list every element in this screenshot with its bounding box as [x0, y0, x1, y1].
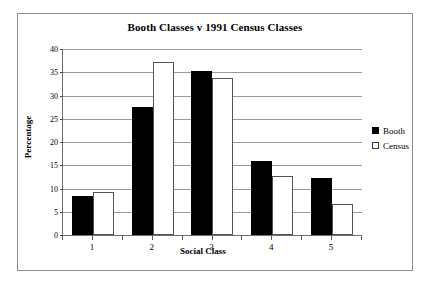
y-axis-tick-label: 20: [50, 138, 58, 147]
y-axis-tick-label: 5: [54, 207, 58, 216]
legend-item-census[interactable]: Census: [372, 139, 428, 152]
chart-legend: BoothCensus: [372, 124, 428, 154]
x-tick-mark: [301, 236, 302, 240]
bar-census-class-3[interactable]: [212, 78, 233, 235]
y-axis-tick-label: 0: [54, 231, 58, 240]
x-tick-mark: [212, 236, 213, 240]
x-axis-title: Social Class: [43, 246, 363, 256]
legend-item-label: Booth: [383, 126, 405, 136]
x-tick-mark: [92, 236, 93, 240]
bars-layer: [63, 49, 362, 235]
bar-census-class-5[interactable]: [332, 204, 353, 235]
bar-group: [302, 49, 362, 235]
bar-booth-class-3[interactable]: [191, 71, 212, 235]
x-tick-mark: [62, 236, 63, 240]
bar-booth-class-2[interactable]: [132, 107, 153, 235]
bar-booth-class-1[interactable]: [72, 196, 93, 235]
legend-item-booth[interactable]: Booth: [372, 124, 428, 137]
bar-group: [63, 49, 123, 235]
y-axis-title: Percentage: [23, 102, 33, 172]
legend-item-label: Census: [383, 141, 409, 151]
x-tick-mark: [152, 236, 153, 240]
x-tick-mark: [241, 236, 242, 240]
y-axis-tick-label: 40: [50, 45, 58, 54]
bar-booth-class-4[interactable]: [251, 161, 272, 235]
bar-census-class-4[interactable]: [272, 176, 293, 235]
x-tick-mark: [122, 236, 123, 240]
bar-booth-class-5[interactable]: [311, 178, 332, 235]
bar-group: [123, 49, 183, 235]
y-axis-tick-label: 35: [50, 68, 58, 77]
x-tick-mark: [331, 236, 332, 240]
outlined-square-icon: [372, 142, 379, 149]
filled-square-icon: [372, 127, 379, 134]
bar-census-class-1[interactable]: [93, 192, 114, 235]
bar-group: [242, 49, 302, 235]
y-axis-tick-label: 30: [50, 91, 58, 100]
bar-census-class-2[interactable]: [153, 62, 174, 235]
x-tick-mark: [361, 236, 362, 240]
bar-group: [183, 49, 243, 235]
x-tick-mark: [271, 236, 272, 240]
y-axis-tick-label: 10: [50, 184, 58, 193]
y-axis-tick-label: 25: [50, 114, 58, 123]
y-axis-tick-label: 15: [50, 161, 58, 170]
x-tick-mark: [182, 236, 183, 240]
chart-title: Booth Classes v 1991 Census Classes: [18, 21, 412, 33]
plot-area: 0510152025303540: [62, 49, 362, 236]
chart-figure-frame: Booth Classes v 1991 Census Classes Perc…: [17, 13, 413, 271]
